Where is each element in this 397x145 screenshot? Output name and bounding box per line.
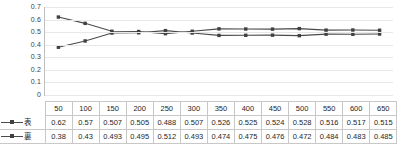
legend-entry: 裏 [0,130,45,144]
table-cell: 0.474 [207,130,234,144]
series-marker [83,39,86,42]
data-table: 50100150200250300350400450500550600650 表… [0,101,397,144]
table-column-header: 400 [234,102,261,116]
table-cell: 0.472 [289,130,316,144]
table-cell: 0.512 [153,130,180,144]
table-cell: 0.493 [180,130,207,144]
gridline [45,70,393,71]
chart-with-data-table: 0.70.60.50.40.30.20.10 50100150200250300… [0,0,397,145]
line-chart: 0.70.60.50.40.30.20.10 [0,0,397,101]
legend-entry: 表 [0,116,45,130]
table-column-header: 550 [316,102,343,116]
table-cell: 0.38 [45,130,72,144]
table-cell: 0.505 [126,116,153,130]
table-corner-cell [0,102,45,116]
legend-line-marker-icon [1,132,23,141]
table-column-header: 500 [289,102,316,116]
table-cell: 0.475 [234,130,261,144]
table-column-header: 450 [262,102,289,116]
y-axis-tick-label: 0.6 [5,16,41,23]
gridline [45,45,393,46]
table-cell: 0.495 [126,130,153,144]
y-axis-tick-label: 0.1 [5,78,41,85]
series-marker [83,22,86,25]
table-column-header: 200 [126,102,153,116]
series-marker [271,33,274,36]
gridline [45,95,393,96]
y-axis-tick-label: 0.2 [5,66,41,73]
table-cell: 0.483 [343,130,370,144]
series-marker [298,34,301,37]
y-axis-tick-label: 0.3 [5,53,41,60]
series-marker [57,46,60,49]
table-cell: 0.43 [72,130,99,144]
series-marker [217,34,220,37]
table-column-header: 600 [343,102,370,116]
table-cell: 0.507 [99,116,126,130]
gridline [45,57,393,58]
table-column-header: 350 [207,102,234,116]
table-column-header: 100 [72,102,99,116]
table-cell: 0.488 [153,116,180,130]
table-cell: 0.485 [370,130,397,144]
y-axis-tick-label: 0.7 [5,3,41,10]
table-cell: 0.515 [370,116,397,130]
legend-label: 裏 [24,132,31,141]
table-cell: 0.524 [262,116,289,130]
series-marker [244,34,247,37]
table-column-header: 150 [99,102,126,116]
table-column-header: 50 [45,102,72,116]
series-marker [217,27,220,30]
y-axis-tick-label: 0.4 [5,41,41,48]
series-marker [271,27,274,30]
y-axis: 0.70.60.50.40.30.20.10 [0,0,41,101]
table-column-header: 250 [153,102,180,116]
table-cell: 0.528 [289,116,316,130]
table-cell: 0.484 [316,130,343,144]
table-cell: 0.526 [207,116,234,130]
gridline [45,7,393,8]
table-cell: 0.516 [316,116,343,130]
series-marker [351,33,354,36]
table-cell: 0.493 [99,130,126,144]
gridline [45,32,393,33]
table-cell: 0.517 [343,116,370,130]
gridline [45,20,393,21]
table-cell: 0.62 [45,116,72,130]
table-cell: 0.507 [180,116,207,130]
series-marker [244,27,247,30]
plot-area [45,7,393,95]
y-axis-tick-label: 0 [5,91,41,98]
legend-label: 表 [24,118,31,127]
gridline [45,82,393,83]
table-column-header: 650 [370,102,397,116]
table-row: 裏0.380.430.4930.4950.5120.4930.4740.4750… [0,130,397,144]
table-row: 表0.620.570.5070.5050.4880.5070.5260.5250… [0,116,397,130]
series-marker [57,15,60,18]
series-marker [298,27,301,30]
table-cell: 0.525 [234,116,261,130]
legend-line-marker-icon [1,118,23,127]
table-cell: 0.57 [72,116,99,130]
y-axis-tick-label: 0.5 [5,28,41,35]
table-header-row: 50100150200250300350400450500550600650 [0,102,397,116]
table-cell: 0.476 [262,130,289,144]
table-column-header: 300 [180,102,207,116]
